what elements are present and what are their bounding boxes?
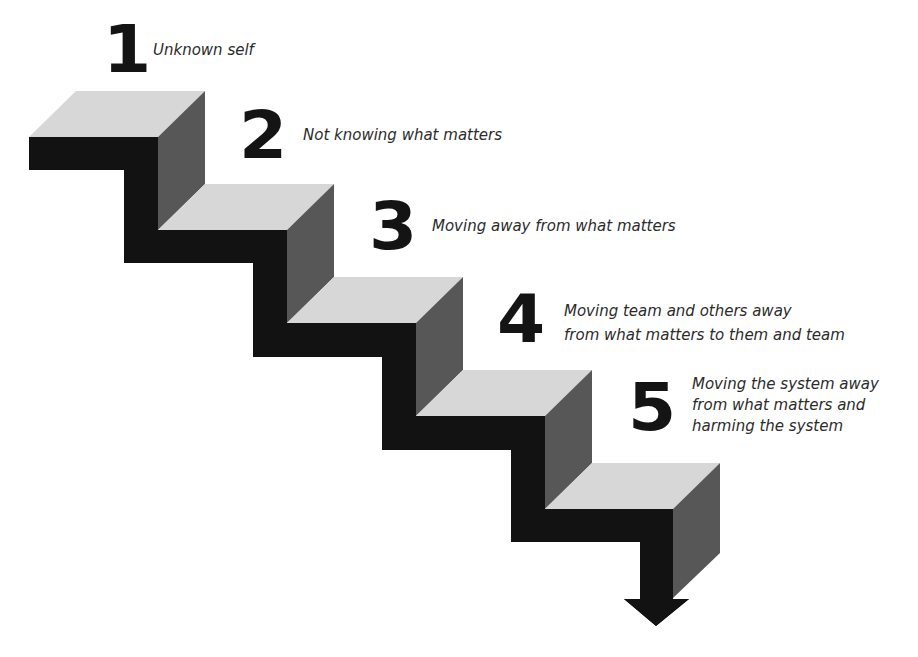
step-5-label-line-2: from what matters and <box>692 395 879 416</box>
step-2-label: Not knowing what matters <box>303 125 502 146</box>
step-4-number: 4 <box>497 287 543 353</box>
step-5-number: 5 <box>628 375 674 441</box>
step-2-number: 2 <box>239 103 285 169</box>
step-3-label-line-1: Moving away from what matters <box>432 216 676 237</box>
step-1-number: 1 <box>103 17 149 83</box>
step-2-label-line-1: Not knowing what matters <box>303 125 502 146</box>
step-4-label: Moving team and others away from what ma… <box>564 299 845 347</box>
step-5-label-line-1: Moving the system away <box>692 374 879 395</box>
step-3-number: 3 <box>369 194 415 260</box>
step-4-label-line-2: from what matters to them and team <box>564 323 845 347</box>
step-4-label-line-1: Moving team and others away <box>564 299 845 323</box>
down-arrow-icon <box>624 599 689 626</box>
step-1-label: Unknown self <box>153 40 254 61</box>
step-3-label: Moving away from what matters <box>432 216 676 237</box>
step-1-label-line-1: Unknown self <box>153 40 254 61</box>
step-5-label-line-3: harming the system <box>692 416 879 437</box>
step-5-label: Moving the system away from what matters… <box>692 374 879 437</box>
